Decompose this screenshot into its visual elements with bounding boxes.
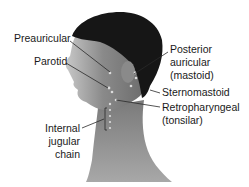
label-internal-jugular-line1: Internal [30, 122, 80, 135]
label-sternomastoid: Sternomastoid [162, 86, 230, 99]
ear-shape [121, 61, 135, 83]
label-internal-jugular-line2: jugular [30, 135, 80, 148]
label-posterior-auricular-line1: Posterior [170, 43, 214, 56]
label-preauricular: Preauricular [14, 32, 71, 45]
label-internal-jugular-line3: chain [30, 148, 80, 161]
label-internal-jugular-chain: Internal jugular chain [30, 122, 80, 161]
label-retropharyngeal: Retropharyngeal (tonsilar) [162, 101, 240, 127]
label-retropharyngeal-line2: (tonsilar) [162, 114, 240, 127]
label-posterior-auricular-line3: (mastoid) [170, 69, 214, 82]
label-retropharyngeal-line1: Retropharyngeal [162, 101, 240, 114]
neck-shape [86, 100, 172, 182]
label-parotid: Parotid [34, 55, 67, 68]
lymph-node-diagram: Preauricular Parotid Posterior auricular… [0, 0, 249, 187]
label-posterior-auricular-line2: auricular [170, 56, 214, 69]
label-posterior-auricular: Posterior auricular (mastoid) [170, 43, 214, 82]
